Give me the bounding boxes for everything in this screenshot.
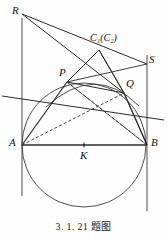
point-label-Q: Q <box>126 78 134 89</box>
point-label-A: A <box>9 137 16 148</box>
segment-P-B <box>67 82 147 145</box>
figure-caption: 3. 1. 21 题图 <box>0 218 167 233</box>
segment-Q-Bfoot <box>124 93 147 145</box>
segment-C1-P <box>67 50 99 82</box>
point-label-S: S <box>149 54 155 65</box>
segment-A-P <box>22 82 67 145</box>
point-K-dot <box>83 144 85 146</box>
line-PQ-extended <box>2 96 164 120</box>
point-label-P: P <box>59 67 66 78</box>
segment-R-Q <box>22 14 124 93</box>
point-label-B: B <box>151 137 158 148</box>
point-label-R: R <box>12 5 19 16</box>
geometry-canvas <box>0 0 167 239</box>
segment-C1-B <box>99 50 124 93</box>
geometry-figure: R C₁(C₂) S P Q A B K 3. 1. 21 题图 <box>0 0 167 239</box>
point-label-K: K <box>80 150 87 161</box>
point-label-C1-C2: C₁(C₂) <box>90 33 117 43</box>
segment-R-C1-S <box>22 14 147 64</box>
